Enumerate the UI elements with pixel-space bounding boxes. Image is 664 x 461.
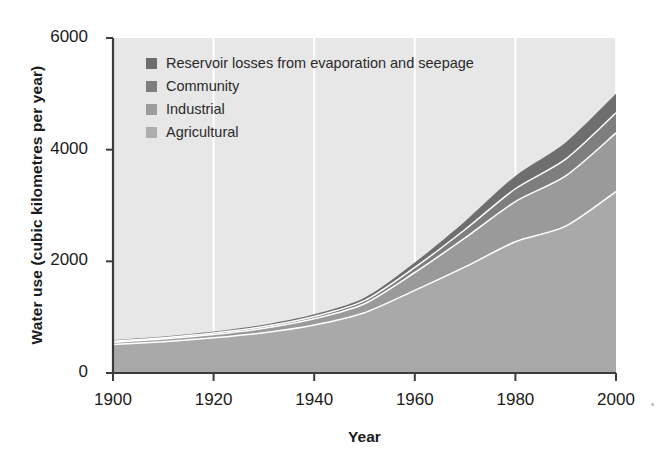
legend-label: Community [166,79,239,94]
x-axis-label: Year [113,428,616,446]
legend-item[interactable]: Community [146,75,474,97]
legend-swatch-icon [146,104,157,115]
legend-item[interactable]: Industrial [146,98,474,120]
legend-item[interactable]: Agricultural [146,121,474,143]
legend-item[interactable]: Reservoir losses from evaporation and se… [146,52,474,74]
y-tick-label-0: 0 [28,362,88,382]
x-tick-label-1920: 1920 [174,390,254,410]
x-tick-label-2000: 2000 [576,390,656,410]
x-tick-label-1980: 1980 [475,390,555,410]
y-tick-label-2000: 2000 [28,250,88,270]
x-tick-label-1940: 1940 [274,390,354,410]
y-axis-label: Water use (cubic kilometres per year) [28,5,46,405]
legend-label: Agricultural [166,125,239,140]
corner-speck [651,403,654,406]
legend-swatch-icon [146,127,157,138]
y-tick-label-4000: 4000 [28,139,88,159]
legend-label: Reservoir losses from evaporation and se… [166,56,474,71]
chart-legend: Reservoir losses from evaporation and se… [146,52,474,144]
legend-label: Industrial [166,102,225,117]
legend-swatch-icon [146,58,157,69]
x-tick-label-1900: 1900 [73,390,153,410]
chart-figure: Water use (cubic kilometres per year) Ye… [0,0,664,461]
legend-swatch-icon [146,81,157,92]
x-tick-label-1960: 1960 [375,390,455,410]
y-tick-label-6000: 6000 [28,27,88,47]
